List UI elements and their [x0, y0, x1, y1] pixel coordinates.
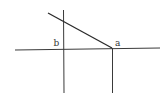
label-b: b [54, 38, 60, 48]
label-a: a [115, 38, 121, 48]
vertical-line-b [64, 10, 65, 93]
geometry-diagram: b a [0, 0, 168, 101]
horizontal-line [15, 48, 160, 50]
